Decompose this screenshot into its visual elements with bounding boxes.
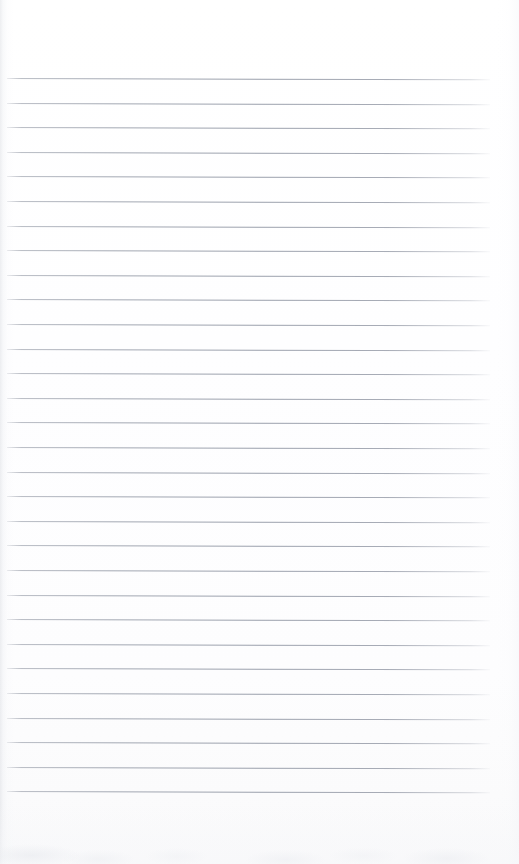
- writing-area[interactable]: [7, 78, 490, 792]
- notebook-page: [0, 0, 519, 864]
